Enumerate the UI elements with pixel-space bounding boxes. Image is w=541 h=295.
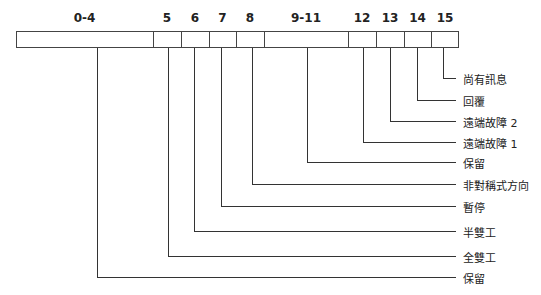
bit-number: 6 xyxy=(191,11,199,25)
leader-line xyxy=(443,48,456,79)
field-label: 尚有訊息 xyxy=(463,71,507,87)
bit-cell xyxy=(264,31,348,48)
bit-number: 8 xyxy=(246,11,254,25)
field-label: 全雙工 xyxy=(463,249,496,265)
bit-cell xyxy=(348,31,376,48)
bit-number: 9-11 xyxy=(291,11,321,25)
field-label: 保留 xyxy=(463,155,485,171)
bit-number: 15 xyxy=(437,11,454,25)
bit-number: 5 xyxy=(163,11,171,25)
bit-cell xyxy=(376,31,404,48)
bit-number: 13 xyxy=(382,11,399,25)
bit-cell xyxy=(181,31,209,48)
bit-number: 0-4 xyxy=(74,11,96,25)
bit-cell xyxy=(153,31,181,48)
field-label: 保留 xyxy=(463,270,485,286)
field-label: 半雙工 xyxy=(463,224,496,240)
bit-number: 14 xyxy=(409,11,426,25)
bit-cell xyxy=(404,31,431,48)
bit-cell xyxy=(16,31,153,48)
bit-field-diagram: 0-456789-1112131415 保留全雙工半雙工暫停非對稱式方向保留遠端… xyxy=(0,0,541,295)
field-label: 遠端故障 1 xyxy=(463,135,518,151)
field-label: 暫停 xyxy=(463,199,485,215)
bit-number: 12 xyxy=(354,11,371,25)
bit-cell xyxy=(236,31,264,48)
field-label: 非對稱式方向 xyxy=(463,177,529,193)
field-label: 遠端故障 2 xyxy=(463,114,518,130)
field-label: 回覆 xyxy=(463,93,485,109)
bit-cell xyxy=(431,31,459,48)
bit-number: 7 xyxy=(218,11,226,25)
bit-cell xyxy=(209,31,236,48)
